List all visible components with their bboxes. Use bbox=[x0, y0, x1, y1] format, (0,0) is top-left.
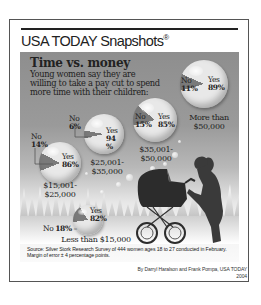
registered-mark: ® bbox=[163, 33, 168, 42]
brand-title: USA TODAY Snapshots® bbox=[21, 33, 169, 49]
pie-more-than-50000-no-label: No11% bbox=[181, 77, 197, 93]
pie-less-than-15000-no-label: No 18% – bbox=[43, 225, 77, 233]
graphic-title: Time vs. money bbox=[30, 56, 130, 70]
pie-25001-35000-no-label: No6% bbox=[69, 115, 81, 131]
bubble-decoration bbox=[178, 140, 181, 143]
pie-25001-35000-range: $25,001- $35,000 bbox=[84, 158, 130, 176]
source-note: Source: Silver Stork Research Survey of … bbox=[27, 246, 237, 258]
top-rule bbox=[21, 28, 238, 30]
pie-more-than-50000-range: More than $50,000 bbox=[184, 113, 234, 131]
byline-year: 2004 bbox=[236, 273, 247, 279]
pie-less-than-15000-range: Less than $15,000 bbox=[60, 235, 132, 244]
bubble-decoration bbox=[116, 182, 121, 187]
pie-15001-25000-range: $15,001- $25,000 bbox=[37, 181, 83, 199]
pie-15001-25000-no-label: No14% bbox=[31, 133, 47, 149]
pie-15001-25000-leader-line bbox=[33, 148, 55, 168]
graphic-subtitle: Young women say they are willing to take… bbox=[30, 70, 160, 97]
pie-less-than-15000-yes-label: Yes82% bbox=[90, 207, 106, 223]
pie-35001-50000-yes-label: Yes85% bbox=[158, 113, 174, 129]
byline: By Darryl Haralson and Frank Pompa, USA … bbox=[138, 266, 247, 280]
bubble-decoration bbox=[100, 190, 104, 194]
woman-with-stroller-icon bbox=[133, 155, 238, 247]
pie-35001-50000-no-label: No15% bbox=[135, 113, 151, 129]
brand-text: USA TODAY Snapshots bbox=[21, 33, 163, 49]
byline-authors: By Darryl Haralson and Frank Pompa, USA … bbox=[138, 266, 247, 272]
pie-15001-25000-yes-label: Yes86% bbox=[62, 153, 78, 169]
pie-more-than-50000-yes-label: Yes89% bbox=[208, 76, 224, 92]
pie-25001-35000-yes-label: Yes94 % bbox=[106, 127, 117, 151]
